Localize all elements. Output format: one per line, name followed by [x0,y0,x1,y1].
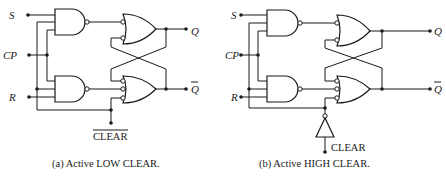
output-q-terminal [428,29,432,33]
output-qbar-terminal [428,87,432,91]
output-qbar-terminal [184,87,188,91]
input-r-label: R [230,91,238,103]
or-gate-top [337,15,370,46]
input-cp-label: CP [225,49,239,61]
nand-gate-top [267,10,298,36]
caption-b: (b) Active HIGH CLEAR. [259,158,370,170]
or-gate-bottom [337,76,370,103]
flip-flop-diagram: S CP R Q Q [0,0,446,178]
input-s-label: S [231,9,237,21]
nand-gate-bottom [55,76,85,102]
output-qbar-label: Q [434,83,442,95]
panel-b: S CP R Q Q [225,9,442,170]
input-s-label: S [9,9,15,21]
nand-gate-bottom [267,76,298,102]
clear-label: CLEAR [93,131,127,142]
output-q-label: Q [434,25,442,37]
output-q-terminal [184,27,188,31]
output-q-label: Q [191,25,199,37]
clear-terminal [109,121,113,125]
or-gate-bottom [123,76,156,103]
nand-gate-top [55,9,85,35]
panel-a: S CP R Q Q [3,9,199,170]
inverter-gate [316,118,334,137]
input-cp-label: CP [3,49,17,61]
clear-terminal [323,150,327,154]
caption-a: (a) Active LOW CLEAR. [52,158,160,170]
clear-label: CLEAR [331,142,365,153]
input-r-label: R [8,91,16,103]
output-qbar-label: Q [191,83,199,95]
or-gate-top [123,14,156,44]
